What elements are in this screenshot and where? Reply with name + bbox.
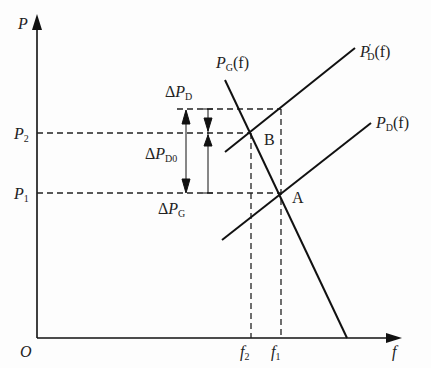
generation-curve-label: PG(f) xyxy=(216,55,249,73)
p2-tick-label: P2 xyxy=(14,126,29,144)
frequency-power-diagram: P f O P2 P1 f2 f1 PG(f) P′D(f) PD(f) B A… xyxy=(0,0,431,368)
load-new-curve-label: P′D(f) xyxy=(360,42,390,62)
x-axis-arrow-icon xyxy=(386,333,402,343)
delta-pg-label: ΔPG xyxy=(158,201,185,219)
delta-arrows xyxy=(182,109,213,193)
point-b-label: B xyxy=(264,132,275,148)
f2-tick-label: f2 xyxy=(240,344,249,362)
y-axis-label: P xyxy=(18,16,28,32)
y-axis-arrow-icon xyxy=(32,14,42,30)
f1-tick-label: f1 xyxy=(271,344,280,362)
point-a-label: A xyxy=(292,190,304,206)
delta-pd0-label: ΔPD0 xyxy=(145,146,177,164)
p1-tick-label: P1 xyxy=(14,186,29,204)
origin-label: O xyxy=(20,344,32,360)
delta-pd-label: ΔPD xyxy=(165,84,192,102)
load-curve-label: PD(f) xyxy=(376,115,409,133)
generation-curve xyxy=(225,80,347,338)
load-curve xyxy=(222,123,371,240)
x-axis-label: f xyxy=(392,344,396,360)
